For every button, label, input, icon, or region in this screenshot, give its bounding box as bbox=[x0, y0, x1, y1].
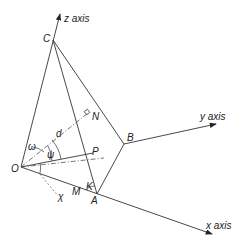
label-d: d bbox=[56, 128, 62, 139]
label-B: B bbox=[127, 132, 134, 143]
label-M: M bbox=[72, 186, 81, 197]
label-chi: χ bbox=[57, 191, 64, 202]
label-C: C bbox=[43, 33, 51, 44]
label-psi: ψ bbox=[47, 149, 55, 160]
label-O: O bbox=[11, 163, 19, 174]
dashed-ON bbox=[21, 113, 88, 167]
x-axis-line bbox=[21, 167, 212, 234]
label-z-axis: z axis bbox=[63, 13, 90, 24]
label-A: A bbox=[90, 195, 98, 206]
geometry-diagram: z axis y axis x axis C N B P O M A K ω ψ… bbox=[0, 0, 244, 249]
z-axis-line bbox=[21, 14, 60, 167]
edge-CA bbox=[53, 40, 97, 194]
y-axis-line bbox=[124, 124, 216, 144]
label-P: P bbox=[92, 146, 99, 157]
edge-CB bbox=[53, 40, 124, 144]
label-omega: ω bbox=[28, 141, 36, 152]
label-x-axis: x axis bbox=[205, 220, 232, 231]
dashed-chi bbox=[40, 174, 58, 196]
label-N: N bbox=[92, 111, 100, 122]
edge-AB bbox=[97, 144, 124, 194]
label-K: K bbox=[86, 181, 94, 192]
label-y-axis: y axis bbox=[199, 111, 226, 122]
chi-arc bbox=[40, 163, 41, 173]
